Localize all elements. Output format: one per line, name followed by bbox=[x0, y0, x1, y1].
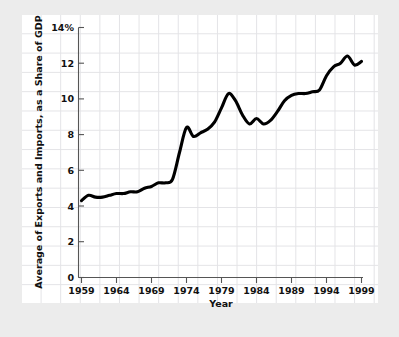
y-tick-label-14: 14% bbox=[51, 22, 74, 33]
x-axis-ticks bbox=[82, 278, 362, 284]
x-tick-label-1959: 1959 bbox=[68, 285, 94, 296]
y-tick-label-10: 10 bbox=[61, 93, 75, 104]
chart-figure: 14% 12 10 8 6 4 2 0 1959 1964 1969 1974 … bbox=[0, 0, 399, 337]
y-tick-label-4: 4 bbox=[67, 201, 74, 212]
x-tick-label-1999: 1999 bbox=[348, 285, 374, 296]
x-tick-label-1969: 1969 bbox=[138, 285, 164, 296]
series-line-trade-share bbox=[82, 56, 362, 201]
chart-plot-svg: 14% 12 10 8 6 4 2 0 1959 1964 1969 1974 … bbox=[0, 0, 399, 337]
y-tick-label-0: 0 bbox=[67, 272, 74, 283]
y-axis-ticks bbox=[79, 28, 85, 278]
y-tick-label-2: 2 bbox=[67, 236, 74, 247]
x-tick-label-1974: 1974 bbox=[173, 285, 200, 296]
x-tick-label-1979: 1979 bbox=[208, 285, 234, 296]
y-axis-title: Average of Exports and Imports, as a Sha… bbox=[33, 15, 44, 288]
y-tick-label-12: 12 bbox=[61, 58, 74, 69]
x-tick-label-1984: 1984 bbox=[243, 285, 270, 296]
x-tick-label-1989: 1989 bbox=[278, 285, 304, 296]
x-axis-title: Year bbox=[208, 298, 233, 309]
y-tick-label-8: 8 bbox=[67, 129, 74, 140]
x-tick-label-1994: 1994 bbox=[313, 285, 340, 296]
y-tick-label-6: 6 bbox=[67, 165, 74, 176]
x-tick-label-1964: 1964 bbox=[103, 285, 130, 296]
